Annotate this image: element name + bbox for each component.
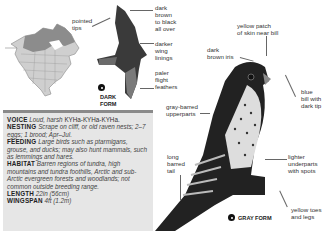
gray-form-symbol-icon: [228, 214, 235, 221]
label-blue-bill: blue bill with dark tip: [301, 88, 321, 109]
dark-form-symbol-icon: [98, 84, 105, 91]
leader-line: [180, 175, 181, 200]
label-dark-brown-iris: dark brown iris: [207, 46, 233, 60]
nesting-label: NESTING: [7, 123, 36, 130]
leader-line: [279, 191, 287, 208]
length-entry: LENGTH 22in (56cm): [3, 190, 153, 197]
nesting-entry: NESTING Scrape on cliff, or old raven ne…: [3, 123, 153, 138]
leader-line: [266, 36, 267, 56]
voice-entry: VOICE Loud, harsh KYHa-KYHa-KYHa.: [3, 116, 153, 123]
leader-line: [265, 159, 287, 160]
voice-call: KYHa-KYHa-KYHa.: [64, 116, 119, 123]
species-facts-panel: VOICE Loud, harsh KYHa-KYHa-KYHa. NESTIN…: [3, 110, 153, 231]
habitat-entry: HABITAT Barren regions of tundra, high m…: [3, 160, 153, 190]
leader-line: [130, 10, 153, 11]
feeding-label: FEEDING: [7, 138, 36, 145]
wingspan-entry: WINGSPAN 4ft (1.2m): [3, 197, 153, 204]
label-long-barred-tail: long barred tail: [167, 153, 185, 174]
label-darker-wing-linings: darker wing linings: [155, 40, 173, 61]
voice-text: Loud, harsh: [29, 116, 64, 123]
voice-label: VOICE: [7, 116, 28, 123]
habitat-label: HABITAT: [7, 160, 35, 167]
label-lighter-underparts: lighter underparts with spots: [288, 153, 318, 174]
feeding-entry: FEEDING Large birds such as ptarmigans, …: [3, 138, 153, 160]
wingspan-label: WINGSPAN: [7, 197, 43, 204]
length-text: 22in (56cm): [36, 190, 69, 197]
label-paler-flight-feathers: paler flight feathers: [155, 69, 177, 90]
wingspan-text: 4ft (1.2m): [45, 197, 72, 204]
leader-line: [200, 113, 210, 114]
label-dark-brown-to-black: dark brown to black all over: [155, 4, 176, 32]
gray-form-tag: GRAY FORM: [238, 215, 272, 222]
dark-form-tag: DARK FORM: [100, 94, 116, 107]
label-gray-barred-upperparts: gray-barred upperparts: [166, 103, 198, 117]
label-yellow-toes-legs: yellow toes and legs: [291, 206, 322, 220]
length-label: LENGTH: [7, 190, 34, 197]
range-map: [5, 22, 85, 100]
label-yellow-patch: yellow patch of skin near bill: [237, 22, 278, 36]
dark-form-tag-line2: FORM: [100, 101, 116, 108]
leader-line: [140, 43, 154, 44]
dark-form-tag-line1: DARK: [100, 94, 116, 101]
leader-line: [140, 88, 154, 89]
label-pointed-tips: pointed tips: [72, 17, 92, 31]
leader-line: [285, 75, 296, 97]
